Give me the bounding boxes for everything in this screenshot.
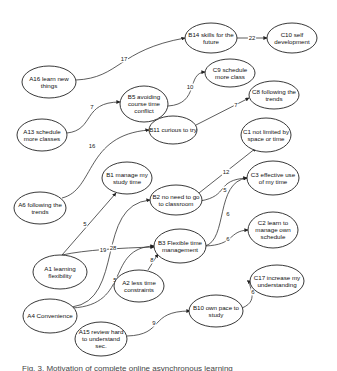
node-label: A15 review hard [79, 328, 124, 335]
node-c3: C3 effective useof my time [247, 161, 299, 195]
node-label: manage own [255, 226, 291, 233]
node-label: A16 learn new [29, 75, 69, 82]
node-label: trends [31, 208, 48, 215]
node-b2: B2 no need to goto classroom [150, 185, 202, 215]
node-c17: C17 increase myunderstanding [250, 265, 304, 297]
node-label: trends [265, 95, 282, 102]
node-label: conflict [134, 107, 154, 114]
node-label: B10 own pace to [193, 304, 240, 311]
edge-weight-label: 12 [223, 169, 230, 175]
motivation-network-diagram: 172271016751928581256669 B14 skills for … [0, 0, 337, 371]
edge-a16-to-b14: 17 [76, 38, 185, 80]
edge-arrow [127, 311, 190, 336]
node-label: C1 not limited by [243, 128, 290, 135]
node-c9: C9 schedulemore class [205, 59, 255, 87]
edge-a2-to-b3: 8 [148, 254, 158, 270]
node-b1: B1 manage mystudy time [102, 162, 152, 194]
node-label: C17 increase my [254, 274, 301, 281]
edge-a1-to-b1: 5 [62, 193, 116, 255]
edge-weight-label: 22 [249, 35, 256, 41]
node-label: C8 following the [252, 88, 297, 95]
nodes-layer: B14 skills for thefutureC10 selfdevelopm… [14, 23, 317, 356]
edge-b2-to-c1: 12 [199, 148, 256, 193]
node-label: flexibility [48, 272, 72, 279]
node-label: study time [113, 178, 142, 185]
node-a16: A16 learn newthings [22, 66, 76, 98]
edge-b14-to-c10: 22 [237, 35, 267, 42]
node-label: schedule [261, 233, 286, 240]
edge-b3-to-c2: 6 [205, 230, 248, 246]
node-label: B11 curious to try [149, 126, 198, 133]
edge-b2-to-c3: 5 [200, 178, 247, 201]
edge-arrow [196, 98, 249, 125]
node-label: sec. [95, 342, 107, 349]
node-a13: A13 schedulemore classes [17, 119, 67, 151]
node-label: C10 self [281, 31, 304, 38]
node-label: C2 learn to [258, 219, 289, 226]
node-label: constraints [124, 286, 154, 293]
edge-a15-to-b10: 9 [127, 311, 190, 336]
node-b10: B10 own pace tostudy [189, 295, 243, 327]
edge-arrow [62, 193, 116, 255]
node-b5: B5 avoidingcourse timeconflict [120, 86, 168, 122]
edge-weight-label: 10 [187, 84, 194, 90]
edge-a13-to-b5: 7 [67, 102, 120, 133]
node-c10: C10 selfdevelopment [267, 23, 317, 53]
figure-caption: Fig. 3. Motivation of complete online as… [22, 362, 322, 371]
node-label: B2 no need to go [152, 193, 200, 200]
node-b11: B11 curious to try [149, 116, 198, 144]
node-label: management [162, 246, 198, 253]
node-label: A2 less time [122, 279, 156, 286]
node-label: A1 learning [44, 265, 76, 272]
node-label: understanding [257, 281, 297, 288]
node-c8: C8 following thetrends [249, 81, 299, 109]
node-label: to understand [82, 335, 120, 342]
node-label: to classroom [158, 200, 193, 207]
edge-b11-to-c8: 7 [196, 98, 249, 125]
node-a2: A2 less timeconstraints [114, 270, 164, 302]
edge-weight-label: 16 [89, 143, 96, 149]
node-label: study [209, 311, 225, 318]
node-label: A4 Convenience [27, 312, 73, 319]
node-label: C3 effective use [251, 171, 296, 178]
node-label: C9 schedule [213, 66, 248, 73]
node-label: B1 manage my [106, 171, 149, 178]
node-label: more class [215, 73, 245, 80]
node-c1: C1 not limited byspace or time [241, 118, 291, 152]
node-label: B5 avoiding [128, 93, 161, 100]
edge-a1-to-b3: 19 [62, 247, 154, 256]
node-label: development [274, 38, 310, 45]
node-a6: A6 following thetrends [14, 192, 66, 224]
node-label: B14 skills for the [188, 31, 234, 38]
node-a4: A4 Convenience [23, 299, 77, 333]
node-a15: A15 review hardto understandsec. [75, 322, 127, 356]
node-b3: B3 Flexible timemanagement [154, 229, 206, 263]
node-label: things [41, 82, 58, 89]
node-c2: C2 learn tomanage ownschedule [248, 212, 298, 248]
node-label: B3 Flexible time [158, 239, 203, 246]
node-label: more classes [24, 135, 60, 142]
edge-weight-label: 19 [100, 247, 107, 253]
edge-weight-label: 17 [121, 56, 128, 62]
node-label: A13 schedule [23, 128, 61, 135]
node-a1: A1 learningflexibility [33, 255, 87, 289]
edge-weight-label: 28 [110, 245, 117, 251]
node-label: A6 following the [18, 201, 62, 208]
edge-arrow [76, 38, 185, 80]
node-label: future [203, 38, 219, 45]
node-label: of my time [259, 178, 288, 185]
node-label: space or time [247, 135, 285, 142]
node-label: course time [128, 100, 161, 107]
node-b14: B14 skills for thefuture [185, 23, 237, 53]
edge-b5-to-c9: 10 [168, 72, 205, 106]
